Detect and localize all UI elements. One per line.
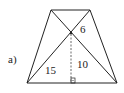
trapezoid-diagram: a) 6 10 15	[0, 0, 124, 93]
diagonal-1	[51, 10, 117, 83]
right-angle-dot	[72, 80, 73, 81]
intersection-point	[70, 32, 72, 34]
label-upper-segment: 6	[80, 23, 86, 35]
label-height: 10	[77, 58, 89, 70]
label-lower-segment: 15	[45, 64, 57, 76]
diagonal-2	[27, 10, 90, 83]
part-label: a)	[8, 53, 17, 66]
trapezoid-outline	[27, 10, 117, 83]
